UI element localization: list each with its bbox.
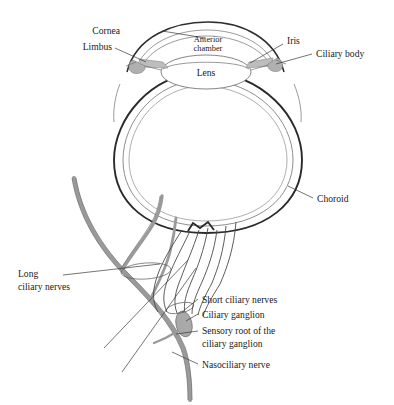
- diagram-canvas: Cornea Limbus Anterior chamber Lens Iris…: [0, 0, 394, 405]
- sensory-root-fiber: [154, 331, 178, 343]
- leader-ciliary-body: [276, 54, 312, 64]
- leader-limbus: [115, 48, 146, 62]
- sclera-outer-wall: [114, 72, 302, 233]
- eye-globe-group: [114, 22, 302, 233]
- label-lens: Lens: [197, 67, 216, 78]
- leader-long-ciliary: [63, 264, 160, 275]
- label-choroid: Choroid: [317, 193, 349, 204]
- label-cornea: Cornea: [92, 25, 120, 36]
- scleral-edge-left: [114, 84, 120, 122]
- label-ciliary-body: Ciliary body: [316, 48, 364, 59]
- label-anterior-chamber-line1: Anterior: [194, 35, 223, 44]
- eye-anatomy-diagram: Cornea Limbus Anterior chamber Lens Iris…: [0, 0, 394, 405]
- label-limbus: Limbus: [83, 41, 113, 52]
- label-sensory-root-line1: Sensory root of the: [202, 325, 275, 336]
- label-long-ciliary-line2: ciliary nerves: [18, 281, 70, 292]
- label-sensory-root-line2: ciliary ganglion: [202, 338, 263, 349]
- label-anterior-chamber-line2: chamber: [194, 44, 223, 53]
- label-ciliary-ganglion: Ciliary ganglion: [202, 309, 265, 320]
- label-long-ciliary-line1: Long: [18, 268, 38, 279]
- scleral-edge-right: [294, 84, 301, 122]
- label-iris: Iris: [287, 35, 300, 46]
- label-short-ciliary-nerves: Short ciliary nerves: [202, 294, 277, 305]
- label-nasociliary-nerve: Nasociliary nerve: [202, 359, 270, 370]
